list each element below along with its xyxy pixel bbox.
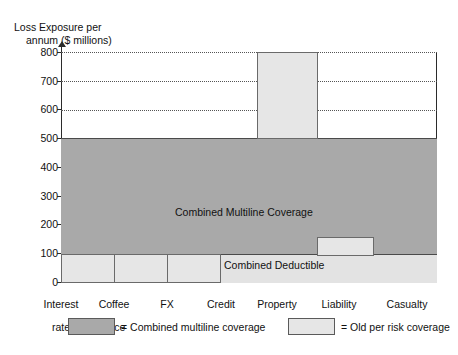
band-combined-multiline-coverage	[61, 138, 437, 255]
bar-old-per-risk-liability	[317, 237, 374, 256]
ytick-label-0: 0	[12, 277, 58, 288]
ytick-label-100: 100	[12, 248, 58, 259]
legend-label-old-per-risk-coverage: = Old per risk coverage	[341, 321, 450, 333]
xtick-fx: FX	[140, 287, 194, 310]
ytick-label-400: 400	[12, 162, 58, 173]
legend-item-old-per-risk-coverage: = Old per risk coverage	[288, 318, 450, 335]
xtick-interest-rate-line1: Interest	[43, 298, 78, 310]
ytick-label-600: 600	[12, 104, 58, 115]
bar-old-per-risk-property	[257, 52, 318, 139]
xtick-credit: Credit	[194, 287, 248, 310]
annotation-combined-multiline-coverage: Combined Multiline Coverage	[175, 206, 313, 218]
y-axis-title-line1: Loss Exposure per	[14, 21, 102, 33]
ytick-label-200: 200	[12, 219, 58, 230]
xtick-credit-line1: Credit	[207, 298, 235, 310]
xtick-liability: Liability	[310, 287, 368, 310]
ytick-label-300: 300	[12, 191, 58, 202]
legend-label-combined-multiline-coverage: = Combined multiline coverage	[121, 321, 265, 333]
xtick-property: Property	[247, 287, 307, 310]
xtick-casualty: Casualty	[377, 287, 437, 310]
xtick-property-line1: Property	[257, 298, 297, 310]
legend-item-combined-multiline-coverage: = Combined multiline coverage	[68, 318, 265, 335]
annotation-combined-deductible: Combined Deductible	[224, 259, 324, 271]
chart-figure: Loss Exposure per annum ($ millions) 800…	[0, 0, 458, 355]
chart-legend: = Combined multiline coverage = Old per …	[0, 318, 458, 342]
ytick-label-500: 500	[12, 133, 58, 144]
bar-old-per-risk-interest-rate	[61, 254, 115, 283]
plot-area: Combined Multiline Coverage Combined Ded…	[61, 52, 437, 283]
ytick-label-800: 800	[12, 47, 58, 58]
bar-old-per-risk-coffee-price	[114, 254, 168, 283]
gridline-600	[61, 110, 437, 111]
xtick-fx-line1: FX	[160, 298, 173, 310]
bar-old-per-risk-fx	[167, 254, 221, 283]
legend-swatch-combined-multiline-coverage	[68, 318, 115, 335]
gridline-700	[61, 81, 437, 82]
xtick-casualty-line1: Casualty	[387, 298, 428, 310]
ytick-label-700: 700	[12, 76, 58, 87]
legend-swatch-old-per-risk-coverage	[288, 318, 335, 335]
xtick-coffee-price-line1: Coffee	[99, 298, 130, 310]
gridline-800	[61, 52, 437, 53]
xtick-liability-line1: Liability	[321, 298, 356, 310]
